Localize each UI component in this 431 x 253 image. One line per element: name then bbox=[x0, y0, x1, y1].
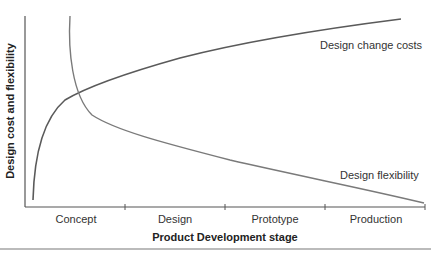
design-flexibility-label: Design flexibility bbox=[340, 169, 419, 181]
category-label-production: Production bbox=[350, 213, 403, 225]
design-change-costs-label: Design change costs bbox=[320, 39, 423, 51]
category-label-design: Design bbox=[158, 213, 192, 225]
y-axis-title: Design cost and flexibility bbox=[4, 42, 16, 179]
chart: Design change costs Design flexibility C… bbox=[0, 0, 431, 253]
category-label-concept: Concept bbox=[56, 213, 97, 225]
category-label-prototype: Prototype bbox=[251, 213, 298, 225]
x-axis-title: Product Development stage bbox=[152, 231, 297, 243]
